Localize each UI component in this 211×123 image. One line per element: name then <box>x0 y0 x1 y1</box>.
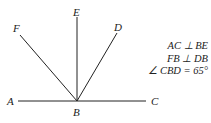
label-c: C <box>151 95 159 107</box>
label-d: D <box>113 21 122 33</box>
ray-bd <box>77 33 117 101</box>
label-e: E <box>72 6 80 18</box>
given-angle-cbd: ∠ CBD = 65° <box>148 65 208 78</box>
label-b: B <box>73 106 80 118</box>
ray-bf <box>20 35 77 101</box>
given-ac-perp-be: AC ⊥ BE <box>148 40 208 53</box>
label-a: A <box>6 95 14 107</box>
label-f: F <box>12 22 20 34</box>
given-conditions: AC ⊥ BE FB ⊥ DB ∠ CBD = 65° <box>148 40 208 78</box>
given-fb-perp-db: FB ⊥ DB <box>148 53 208 66</box>
